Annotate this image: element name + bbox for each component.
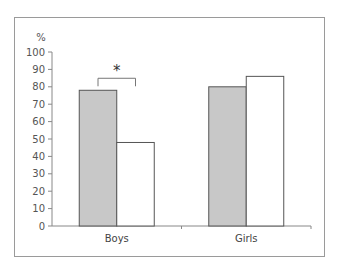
y-tick-label: 10 [32,203,45,214]
bar-boys-2 [117,142,155,226]
bar-girls-2 [246,76,284,226]
y-tick-label: 100 [26,47,45,58]
bar-boys-1 [79,90,117,226]
y-tick-label: 30 [32,168,45,179]
y-tick-label: 20 [32,186,45,197]
significance-asterisk: * [113,62,121,80]
x-category-label: Boys [105,233,129,244]
bar-girls-1 [209,87,247,226]
bar-chart: 0102030405060708090100%BoysGirls* [0,0,345,271]
y-tick-label: 0 [39,221,45,232]
y-tick-label: 80 [32,81,45,92]
y-tick-label: 70 [32,99,45,110]
y-tick-label: 60 [32,116,45,127]
x-category-label: Girls [235,233,258,244]
y-tick-label: 50 [32,134,45,145]
y-tick-label: 90 [32,64,45,75]
y-axis-label: % [36,32,46,43]
y-tick-label: 40 [32,151,45,162]
